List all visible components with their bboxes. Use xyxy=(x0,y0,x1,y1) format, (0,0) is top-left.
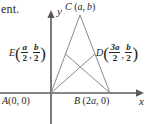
point-name-C: C xyxy=(65,1,72,12)
geometry-figure: ent. y x C (a, b) A(0, 0) B (2a, 0) E(a2… xyxy=(0,0,151,124)
point-coords-C: (a, b) xyxy=(72,1,96,12)
point-coords-A: (0, 0) xyxy=(8,95,30,106)
page-text-fragment: ent. xyxy=(1,3,19,15)
y-axis-label: y xyxy=(57,6,62,17)
y-axis xyxy=(47,10,54,124)
fraction-E-y: b2 xyxy=(33,43,40,63)
point-label-E: E(a2,b2) xyxy=(9,43,46,63)
x-axis-label: x xyxy=(139,96,144,107)
point-coords-B: (2a, 0) xyxy=(80,95,109,106)
fraction-D-x: 3a2 xyxy=(109,43,120,63)
point-name-D: D xyxy=(96,48,103,58)
point-label-C: C (a, b) xyxy=(65,1,95,12)
point-label-A: A(0, 0) xyxy=(2,95,30,106)
fraction-E-x: a2 xyxy=(21,43,28,63)
fraction-D-y: b2 xyxy=(125,43,132,63)
point-label-B: B (2a, 0) xyxy=(74,95,109,106)
point-label-D: D(3a2,b2) xyxy=(96,43,138,63)
